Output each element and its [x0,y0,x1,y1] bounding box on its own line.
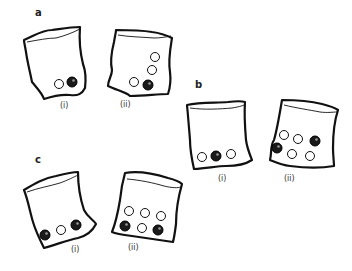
white-marble [141,209,150,218]
marble-highlight [158,227,161,230]
marble-highlight [148,82,151,85]
white-marble [130,78,139,87]
panel-label-b: b [195,79,202,90]
white-marble [138,224,147,233]
marble-highlight [76,222,79,225]
black-marble [153,225,163,235]
panel-label-a: a [35,7,42,18]
marble-highlight [277,145,280,148]
bag-label: (i) [71,245,79,254]
white-marble [306,152,315,161]
bag-outline [112,172,182,242]
white-marble [57,226,66,235]
black-marble [40,230,50,240]
marble-highlight [125,223,128,226]
bag-a-i: (i) [24,27,86,110]
marble-highlight [45,232,48,235]
black-marble [71,220,81,230]
black-marble [310,136,320,146]
white-marble [227,150,236,159]
black-marble [272,143,282,153]
bag-c-ii: (ii) [112,172,182,252]
black-marble [67,77,77,87]
white-marble [280,131,289,140]
panel-a: a (i) (ii) [24,7,172,110]
panel-b: b (i) (ii) [187,79,338,183]
white-marble [288,150,297,159]
white-marble [151,53,160,62]
panel-c: c (i) (ii) [24,154,182,254]
black-marble [211,151,221,161]
black-marble [120,221,130,231]
black-marble [143,80,153,90]
white-marble [125,207,134,216]
marble-highlight [72,79,75,82]
white-marble [294,135,303,144]
bag-a-ii: (ii) [108,30,172,109]
bag-label: (ii) [128,243,139,252]
bag-label: (i) [218,174,226,183]
marble-highlight [216,153,219,156]
bag-label: (ii) [284,174,295,183]
white-marble [157,212,166,221]
marble-bags-figure: a (i) (ii) b [0,0,352,271]
bag-label: (ii) [120,100,131,109]
bag-b-i: (i) [187,101,252,183]
bag-outline [108,30,172,96]
white-marble [148,66,157,75]
panel-label-c: c [35,154,41,165]
white-marble [198,153,207,162]
bag-label: (i) [60,101,68,110]
bag-c-i: (i) [24,172,96,254]
marble-highlight [315,138,318,141]
white-marble [55,80,64,89]
bag-b-ii: (ii) [270,100,338,183]
